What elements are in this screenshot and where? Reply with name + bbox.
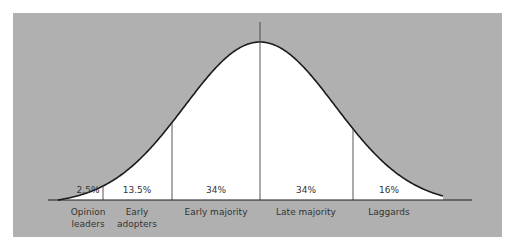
percent-label-late-majority: 34% [296, 185, 316, 195]
percent-label-laggards: 16% [379, 185, 399, 195]
segment-label-opinion-leaders: leaders [71, 219, 105, 229]
segment-label-early-adopters: Early [126, 207, 149, 217]
percent-label-early-majority: 34% [206, 185, 226, 195]
segment-label-laggards: Laggards [368, 207, 410, 217]
percent-label-early-adopters: 13.5% [123, 185, 152, 195]
segment-label-opinion-leaders: Opinion [71, 207, 106, 217]
percent-label-opinion-leaders: 2.5% [77, 185, 100, 195]
segment-label-early-majority: Early majority [185, 207, 249, 217]
diffusion-of-innovation-diagram: 2.5%13.5%34%34%16% OpinionleadersEarlyad… [0, 0, 515, 247]
segment-label-early-adopters: adopters [117, 219, 157, 229]
segment-label-late-majority: Late majority [276, 207, 336, 217]
